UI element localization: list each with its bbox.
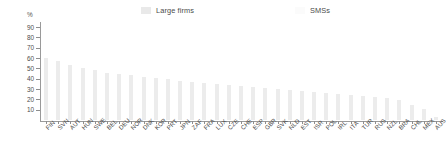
y-axis-tick-label: 80: [20, 34, 34, 41]
bar: [105, 73, 109, 120]
bar-chart: Large firms SMSs % 102030405060708090 FI…: [0, 0, 448, 155]
bar: [68, 65, 72, 120]
bar: [251, 87, 255, 120]
legend-swatch-icon-smes: [295, 7, 305, 14]
bar: [349, 95, 353, 120]
bar: [397, 100, 401, 120]
legend-label-smes: SMSs: [310, 6, 330, 15]
bar: [44, 58, 48, 120]
bar: [385, 98, 389, 120]
bar: [288, 90, 292, 120]
bar: [410, 105, 414, 120]
bar: [215, 84, 219, 120]
bar: [117, 74, 121, 120]
bar: [190, 82, 194, 120]
bar: [263, 88, 267, 120]
bar: [239, 86, 243, 120]
y-axis-tick-label: 10: [20, 106, 34, 113]
bar: [56, 61, 60, 120]
legend-item-smes: SMSs: [295, 6, 330, 15]
y-axis-tick-label: 70: [20, 44, 34, 51]
y-axis-tick-label: 40: [20, 75, 34, 82]
plot-area: [40, 22, 442, 120]
legend-item-large-firms: Large firms: [141, 6, 194, 15]
bar: [324, 93, 328, 120]
bar: [300, 91, 304, 120]
bar: [312, 92, 316, 120]
bar: [81, 68, 85, 120]
bar: [422, 109, 426, 120]
bar: [336, 94, 340, 120]
bar: [178, 81, 182, 120]
y-axis-tick-label: 60: [20, 55, 34, 62]
bar: [142, 77, 146, 120]
y-axis-tick-label: 30: [20, 86, 34, 93]
bar: [202, 83, 206, 120]
bar: [154, 78, 158, 120]
bar: [361, 96, 365, 120]
legend-label-large-firms: Large firms: [156, 6, 194, 15]
bar: [129, 75, 133, 120]
bar: [276, 89, 280, 120]
bar: [166, 79, 170, 120]
bar: [93, 70, 97, 120]
y-axis-tick-label: 50: [20, 65, 34, 72]
bar: [227, 85, 231, 120]
chart-legend: Large firms SMSs: [0, 6, 448, 20]
y-axis-unit-label: %: [27, 11, 33, 18]
y-axis-tick-label: 90: [20, 24, 34, 31]
legend-swatch-icon-large-firms: [141, 7, 151, 14]
y-axis-tick-label: 20: [20, 96, 34, 103]
bar: [373, 97, 377, 120]
